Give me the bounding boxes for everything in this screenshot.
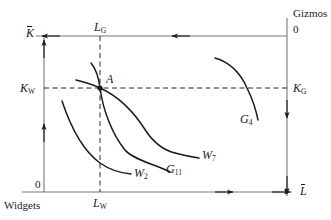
curve-W7 (76, 80, 199, 158)
curve-label-W7: W7 (202, 149, 216, 163)
labor-gizmos-letter: L (94, 20, 101, 34)
curve-W2 (62, 101, 131, 174)
curve-G4-letter: G (240, 112, 249, 126)
curve-label-G4: G4 (240, 113, 252, 127)
labor-gizmos-label: LG (94, 21, 106, 35)
widgets-capital-axis-letter: K (26, 26, 34, 40)
diagram-canvas (0, 0, 331, 220)
widgets-origin-label: Widgets (4, 200, 40, 211)
curve-W7-subscript: 7 (212, 154, 216, 163)
curve-G11-subscript: 11 (175, 168, 182, 177)
capital-widgets-subscript: W (28, 87, 35, 96)
capital-widgets-letter: K (20, 81, 28, 95)
labor-gizmos-subscript: G (101, 26, 106, 35)
widgets-capital-axis-label: K (26, 27, 34, 39)
widgets-zero-label: 0 (35, 179, 41, 190)
point-A-label: A (106, 73, 113, 85)
edgeworth-box-figure: Gizmos 0 Widgets 0 K L LG LW KW KG A W2 … (0, 0, 331, 220)
labor-widgets-letter: L (93, 196, 100, 210)
curve-G4-subscript: 4 (249, 118, 253, 127)
curve-label-W2: W2 (134, 167, 148, 181)
capital-gizmos-letter: K (293, 81, 301, 95)
point-A-marker (97, 85, 102, 90)
widgets-labor-axis-label: L (300, 185, 307, 197)
widgets-labor-axis-letter: L (300, 184, 307, 198)
curve-G11-letter: G (166, 162, 175, 176)
capital-gizmos-label: KG (293, 82, 306, 96)
curve-G4 (215, 58, 258, 120)
gizmos-origin-label: Gizmos (293, 8, 327, 19)
labor-widgets-subscript: W (100, 202, 107, 211)
gizmos-zero-label: 0 (293, 24, 299, 35)
curve-W2-subscript: 2 (144, 172, 148, 181)
curve-W7-letter: W (202, 148, 212, 162)
curve-label-G11: G11 (166, 163, 182, 177)
capital-gizmos-subscript: G (301, 87, 306, 96)
labor-widgets-label: LW (93, 197, 107, 211)
curve-W2-letter: W (134, 166, 144, 180)
curve-G11 (91, 63, 170, 172)
capital-widgets-label: KW (20, 82, 35, 96)
